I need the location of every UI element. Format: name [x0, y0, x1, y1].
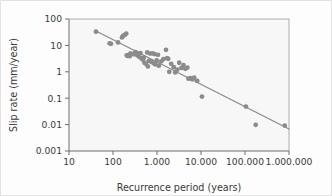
data-point: [164, 47, 169, 52]
scatter-chart: 101001.00010.000100.0001.000.000 0.0010.…: [1, 1, 332, 196]
y-axis-tick-labels: 0.0010.010.1110100: [36, 13, 62, 156]
x-tick-label: 10: [63, 156, 75, 167]
data-point: [282, 123, 287, 128]
data-point: [94, 29, 99, 34]
y-tick-label: 0.01: [42, 119, 62, 130]
x-axis-title: Recurrence period (years): [117, 182, 242, 193]
y-axis-ticks: [65, 19, 69, 151]
plot-background: [69, 19, 289, 151]
x-axis-tick-labels: 101001.00010.000100.0001.000.000: [63, 156, 312, 167]
figure-inner: 101001.00010.000100.0001.000.000 0.0010.…: [1, 1, 332, 196]
x-tick-label: 10.000: [185, 156, 217, 167]
x-tick-label: 100: [104, 156, 122, 167]
y-tick-label: 0.001: [36, 145, 62, 156]
data-point: [253, 122, 258, 127]
y-axis-title: Slip rate (mm/year): [8, 38, 19, 132]
data-point: [167, 69, 172, 74]
data-point: [156, 52, 161, 57]
figure-frame: 101001.00010.000100.0001.000.000 0.0010.…: [0, 0, 332, 196]
data-point: [175, 67, 180, 72]
data-point: [177, 60, 182, 65]
x-tick-label: 1.000.000: [266, 156, 313, 167]
data-point: [156, 63, 161, 68]
data-point: [166, 56, 171, 61]
data-point: [141, 55, 146, 60]
data-point: [124, 31, 129, 36]
y-tick-label: 0.1: [47, 93, 62, 104]
data-point: [138, 51, 143, 56]
data-point: [145, 64, 150, 69]
data-point: [154, 58, 159, 63]
data-point: [116, 40, 121, 45]
x-axis-ticks: [69, 151, 289, 155]
data-point: [244, 104, 249, 109]
x-tick-label: 1.000: [144, 156, 170, 167]
y-tick-label: 1: [56, 66, 62, 77]
x-tick-label: 100.000: [226, 156, 264, 167]
y-tick-label: 100: [44, 13, 62, 24]
data-point: [109, 41, 114, 46]
y-tick-label: 10: [50, 40, 62, 51]
data-point: [185, 65, 190, 70]
data-point: [195, 79, 200, 84]
data-point: [200, 94, 205, 99]
